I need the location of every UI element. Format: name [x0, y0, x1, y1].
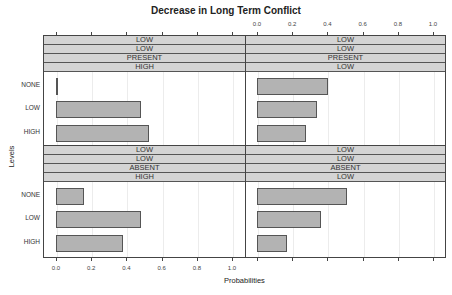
y-axis-title: Levels — [7, 142, 16, 172]
x-tick — [433, 258, 434, 261]
bar-low — [56, 101, 141, 118]
bar-high — [257, 125, 306, 142]
x-tick — [197, 32, 198, 35]
x-tick — [197, 258, 198, 261]
plot-area — [246, 182, 445, 257]
x-tick-label: 0.2 — [81, 265, 101, 271]
x-tick-label: 1.0 — [222, 265, 242, 271]
gridline — [198, 182, 199, 257]
strip-label: LOW — [246, 63, 445, 72]
bar-none — [56, 78, 58, 95]
x-tick-label: 0.8 — [388, 21, 408, 27]
x-tick — [232, 32, 233, 35]
y-tick-label: NONE — [4, 81, 40, 88]
strip-label: LOW — [246, 173, 445, 182]
x-tick — [162, 32, 163, 35]
panel-bottom-right: LOWLOWABSENTLOW — [245, 145, 446, 258]
x-tick-label: 0.2 — [282, 21, 302, 27]
x-tick — [363, 258, 364, 261]
panel-top-left: LOWLOWPRESENTHIGH — [43, 35, 246, 146]
x-tick-label: 0.6 — [353, 21, 373, 27]
x-tick — [327, 32, 328, 35]
gridline — [399, 182, 400, 257]
gridline — [233, 182, 234, 257]
x-tick-label: 0.4 — [116, 265, 136, 271]
gridline — [233, 72, 234, 145]
x-tick — [398, 32, 399, 35]
bar-none — [257, 78, 328, 95]
x-tick — [91, 32, 92, 35]
y-tick-label: HIGH — [4, 128, 40, 135]
y-tick-label: NONE — [4, 191, 40, 198]
gridline — [364, 72, 365, 145]
bar-high — [257, 235, 287, 252]
plot-area — [246, 72, 445, 145]
x-tick — [257, 258, 258, 261]
plot-area — [44, 182, 245, 257]
x-tick — [162, 258, 163, 261]
panel-bottom-left: LOWLOWABSENTHIGH — [43, 145, 246, 258]
x-tick — [126, 258, 127, 261]
x-tick-label: 1.0 — [423, 21, 443, 27]
gridline — [163, 72, 164, 145]
x-tick-label: 0.0 — [247, 21, 267, 27]
x-tick — [292, 32, 293, 35]
bar-low — [257, 101, 317, 118]
gridline — [399, 72, 400, 145]
y-tick-label: LOW — [4, 214, 40, 221]
gridline — [198, 72, 199, 145]
gridline — [328, 72, 329, 145]
bar-none — [257, 188, 347, 205]
bar-high — [56, 125, 149, 142]
x-tick-label: 0.4 — [317, 21, 337, 27]
gridline — [364, 182, 365, 257]
bar-high — [56, 235, 123, 252]
x-tick — [327, 258, 328, 261]
x-tick — [398, 258, 399, 261]
x-tick — [56, 258, 57, 261]
x-tick — [257, 32, 258, 35]
x-axis-title: Probabilities — [224, 276, 265, 285]
x-tick — [232, 258, 233, 261]
x-tick-label: 0.0 — [46, 265, 66, 271]
x-tick — [91, 258, 92, 261]
plot-area — [44, 72, 245, 145]
gridline — [163, 182, 164, 257]
panel-top-right: LOWLOWPRESENTLOW — [245, 35, 446, 146]
x-tick — [433, 32, 434, 35]
bar-low — [56, 211, 141, 228]
bar-low — [257, 211, 321, 228]
gridline — [434, 72, 435, 145]
x-tick — [292, 258, 293, 261]
chart-title: Decrease in Long Term Conflict — [0, 5, 452, 16]
x-tick-label: 0.8 — [187, 265, 207, 271]
strip-label: HIGH — [44, 63, 245, 72]
x-tick — [363, 32, 364, 35]
gridline — [434, 182, 435, 257]
y-tick-label: LOW — [4, 104, 40, 111]
bar-none — [56, 188, 84, 205]
x-tick — [126, 32, 127, 35]
x-tick-label: 0.6 — [152, 265, 172, 271]
strip-label: HIGH — [44, 173, 245, 182]
y-tick-label: HIGH — [4, 238, 40, 245]
x-tick — [56, 32, 57, 35]
